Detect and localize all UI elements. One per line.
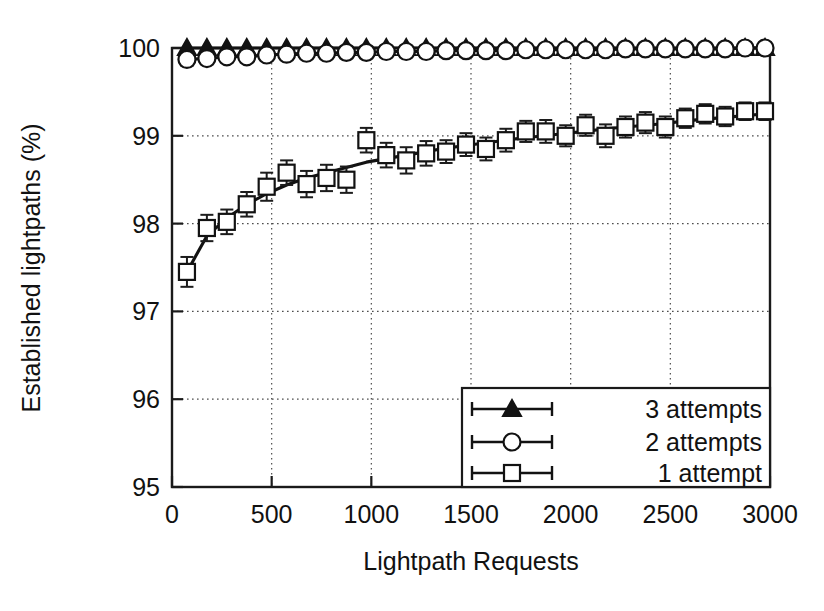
x-tick-label-3000: 3000 xyxy=(742,500,798,528)
x-tick-label-1500: 1500 xyxy=(443,500,499,528)
data-point-marker xyxy=(198,50,215,67)
data-point-marker xyxy=(477,42,494,59)
data-point-marker xyxy=(757,103,773,119)
x-tick-label-0: 0 xyxy=(165,500,179,528)
data-point-marker xyxy=(279,165,295,181)
data-point-marker xyxy=(238,48,255,65)
data-point-marker xyxy=(398,43,415,60)
x-tick-label-500: 500 xyxy=(251,500,293,528)
data-point-marker xyxy=(438,144,454,160)
data-point-marker xyxy=(418,145,434,161)
legend: 3 attempts2 attempts1 attempt xyxy=(462,388,770,487)
data-point-marker xyxy=(278,46,295,63)
data-point-marker xyxy=(178,51,195,68)
data-point-marker xyxy=(677,110,693,126)
data-point-marker xyxy=(577,41,594,58)
line-chart: 9596979899100 050010001500200025003000 E… xyxy=(0,0,824,611)
data-point-marker xyxy=(318,170,334,186)
y-tick-label-98: 98 xyxy=(132,210,160,238)
legend-label: 2 attempts xyxy=(645,428,762,456)
data-point-marker xyxy=(578,117,594,133)
data-point-marker xyxy=(418,43,435,60)
data-point-marker xyxy=(717,40,734,57)
data-point-marker xyxy=(757,40,774,57)
data-point-marker xyxy=(258,47,275,64)
data-point-marker xyxy=(637,40,654,57)
data-point-marker xyxy=(657,119,673,135)
y-tick-label-99: 99 xyxy=(132,122,160,150)
data-point-marker xyxy=(537,41,554,58)
data-point-marker xyxy=(538,123,554,139)
y-tick-label-100: 100 xyxy=(118,34,160,62)
data-point-marker xyxy=(438,42,455,59)
data-point-marker xyxy=(617,119,633,135)
data-point-marker xyxy=(259,179,275,195)
data-point-marker xyxy=(398,152,414,168)
data-point-marker xyxy=(199,220,215,236)
data-point-marker xyxy=(518,123,534,139)
data-point-marker xyxy=(598,128,614,144)
data-point-marker xyxy=(338,172,354,188)
data-point-marker xyxy=(697,40,714,57)
data-point-marker xyxy=(517,41,534,58)
x-tick-label-2500: 2500 xyxy=(643,500,699,528)
data-point-marker xyxy=(378,147,394,163)
x-tick-label-2000: 2000 xyxy=(543,500,599,528)
data-point-marker xyxy=(478,141,494,157)
data-point-marker xyxy=(637,115,653,131)
data-point-marker xyxy=(697,106,713,122)
y-tick-label-97: 97 xyxy=(132,297,160,325)
data-point-marker xyxy=(298,45,315,62)
data-point-marker xyxy=(458,42,475,59)
chart-figure: 9596979899100 050010001500200025003000 E… xyxy=(0,0,824,611)
data-point-marker xyxy=(318,45,335,62)
data-point-marker xyxy=(717,108,733,124)
y-tick-label-95: 95 xyxy=(132,473,160,501)
data-point-marker xyxy=(358,132,374,148)
y-axis-title: Established lightpaths (%) xyxy=(17,123,45,412)
y-tick-label-96: 96 xyxy=(132,385,160,413)
data-point-marker xyxy=(239,196,255,212)
data-point-marker xyxy=(299,176,315,192)
data-point-marker xyxy=(597,41,614,58)
data-point-marker xyxy=(557,41,574,58)
data-point-marker xyxy=(497,42,514,59)
data-point-marker xyxy=(737,40,754,57)
x-axis-title: Lightpath Requests xyxy=(363,547,578,575)
data-point-marker xyxy=(737,103,753,119)
data-point-marker xyxy=(657,40,674,57)
legend-label: 3 attempts xyxy=(645,395,762,423)
data-point-marker xyxy=(179,264,195,280)
data-point-marker xyxy=(458,137,474,153)
data-point-marker xyxy=(378,43,395,60)
data-point-marker xyxy=(219,214,235,230)
legend-marker-circle-open xyxy=(504,434,521,451)
data-point-marker xyxy=(498,132,514,148)
data-point-marker xyxy=(218,48,235,65)
data-point-marker xyxy=(558,128,574,144)
data-point-marker xyxy=(358,44,375,61)
legend-marker-square-open xyxy=(504,465,520,481)
data-point-marker xyxy=(338,44,355,61)
data-point-marker xyxy=(677,40,694,57)
x-tick-label-1000: 1000 xyxy=(344,500,400,528)
data-point-marker xyxy=(617,40,634,57)
legend-label: 1 attempt xyxy=(658,459,762,487)
chart-background xyxy=(0,0,824,611)
